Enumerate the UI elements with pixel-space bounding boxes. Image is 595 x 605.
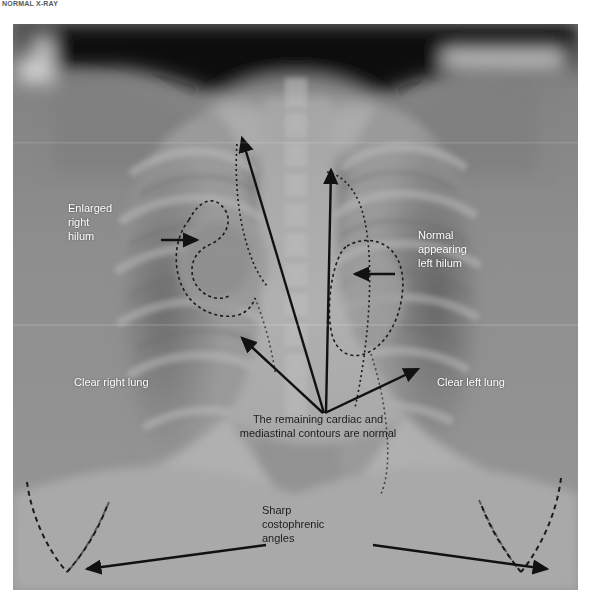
annotation-enlarged-right-hilum: Enlarged right hilum bbox=[68, 201, 158, 243]
annotation-clear-right-lung: Clear right lung bbox=[74, 375, 194, 389]
spine bbox=[285, 78, 307, 418]
page-header-title: NORMAL X-RAY bbox=[2, 0, 122, 11]
annotation-cardiac-mediastinal-contours: The remaining cardiac and mediastinal co… bbox=[218, 412, 418, 440]
annotation-sharp-costophrenic-angles: Sharp costophrenic angles bbox=[262, 503, 362, 545]
annotation-normal-appearing-left-hilum: Normal appearing left hilum bbox=[418, 228, 518, 270]
annotation-clear-left-lung: Clear left lung bbox=[437, 375, 557, 389]
